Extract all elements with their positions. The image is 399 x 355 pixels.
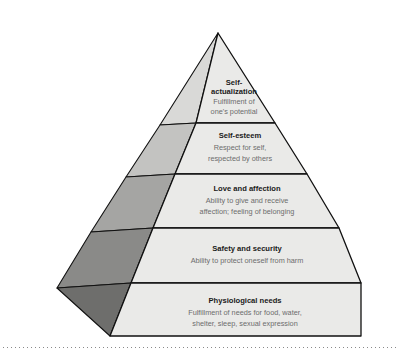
pyramid-graphic: Self- actualization Fulfillment of one's… [0,0,399,355]
tier-1-title-line2: actualization [211,87,257,96]
tier-2-title: Self-esteem [219,131,262,140]
tier-3-desc-line2: affection; feeling of belonging [200,207,295,216]
bottom-dotted-divider [3,347,396,348]
tier-1-desc-line1: Fulfillment of [213,97,255,106]
tier-3-desc-line1: Ability to give and receive [206,196,289,205]
pyramid-diagram: Self- actualization Fulfillment of one's… [0,0,399,355]
tier-2-desc-line2: respected by others [208,154,272,163]
tier-4-title: Safety and security [212,244,282,253]
tier-2-desc-line1: Respect for self, [214,143,267,152]
tier-1-title-line1: Self- [226,78,243,87]
tier-label-love-and-affection: Love and affection Ability to give and r… [200,184,295,216]
tier-4-desc-line1: Ability to protect oneself from harm [191,256,304,265]
tier-3-title: Love and affection [213,184,280,193]
tier-5-desc-line1: Fulfillment of needs for food, water, [188,308,302,317]
tier-1-desc-line2: one's potential [211,107,258,116]
tier-5-title: Physiological needs [208,296,281,305]
tier-5-desc-line2: shelter, sleep, sexual expression [192,319,297,328]
